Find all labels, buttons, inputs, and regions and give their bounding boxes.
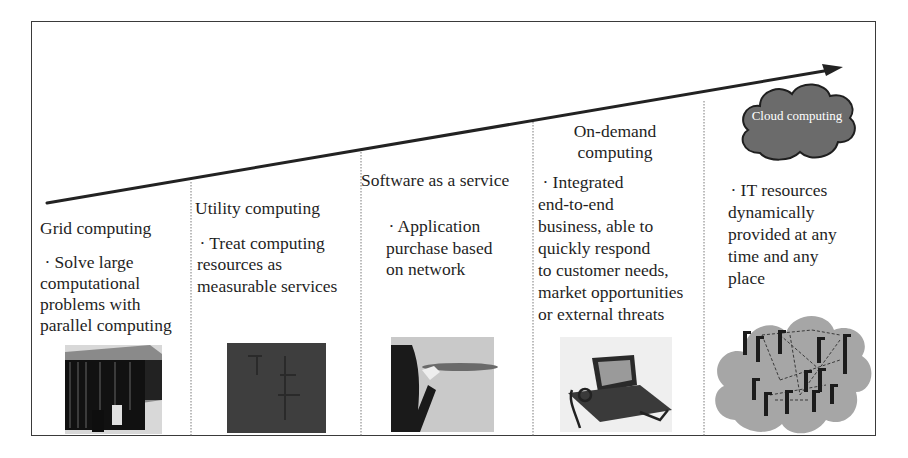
stage-5-line-1: · IT resources	[726, 180, 827, 202]
stage-4-line-2: end-to-end	[538, 194, 614, 216]
stage-1-title: Grid computing	[40, 218, 151, 240]
stage-4-line-3: business, able to	[538, 216, 653, 238]
cloud-badge-label: Cloud computing	[740, 108, 854, 124]
stage-2-line-1: · Treat computing	[195, 233, 325, 255]
stage-1-line-2: computational	[40, 273, 140, 295]
supercomputer-image	[65, 345, 162, 434]
stage-4-line-6: market opportunities	[538, 282, 683, 304]
stage-4-line-5: to customer needs,	[538, 260, 669, 282]
stage-2-title: Utility computing	[195, 198, 320, 220]
stage-1-line-3: problems with	[40, 294, 141, 316]
stage-4-line-1: · Integrated	[538, 172, 624, 194]
stage-4-line-7: or external threats	[538, 304, 664, 326]
stage-1-line-1: · Solve large	[40, 252, 133, 274]
stage-4-title-line-2: computing	[560, 142, 670, 164]
stage-3-line-3: on network	[386, 259, 465, 281]
stage-1-line-4: parallel computing	[40, 315, 172, 337]
arrowhead-icon	[822, 64, 843, 76]
laptop-robot-image	[560, 337, 672, 432]
stage-4-line-4: quickly respond	[538, 238, 650, 260]
network-cloud-image	[715, 316, 871, 433]
waiter-tray-image	[391, 337, 498, 432]
stage-2-line-3: measurable services	[197, 276, 337, 298]
stage-5-line-4: time and any	[728, 246, 818, 268]
stage-5-line-2: dynamically	[728, 202, 815, 224]
utility-meter-image	[227, 343, 326, 433]
stage-3-line-2: purchase based	[386, 238, 492, 260]
stage-5-line-5: place	[728, 268, 765, 290]
stage-3-title: Software as a service	[361, 170, 509, 192]
stage-5-line-3: provided at any	[728, 224, 837, 246]
stage-4-title-line-1: On-demand	[560, 121, 670, 143]
stage-3-line-1: · Application	[384, 216, 480, 238]
stage-2-line-2: resources as	[197, 254, 282, 276]
